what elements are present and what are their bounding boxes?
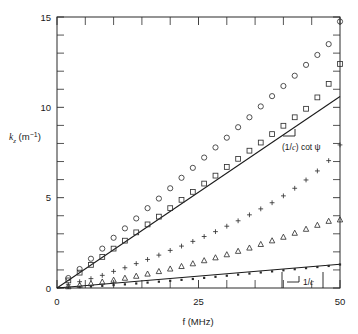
data-point: [304, 106, 309, 111]
data-point: [292, 186, 297, 191]
data-point: [77, 266, 82, 271]
data-point: [269, 94, 274, 99]
series-plus: [66, 143, 342, 288]
series-squares: [66, 62, 342, 283]
data-point: [180, 279, 182, 281]
data-point: [134, 216, 139, 221]
annotation-one-over-c-label: 1/c: [303, 277, 314, 287]
figure-container: 051015 02550 kz (m−1) f (MHz) (1/c) cot …: [0, 0, 358, 334]
data-point: [146, 281, 148, 283]
data-point: [179, 175, 184, 180]
data-point: [213, 173, 218, 178]
slope-marker-cot-psi: [283, 129, 295, 136]
data-point: [260, 271, 262, 273]
data-point: [179, 263, 184, 268]
data-point: [124, 283, 126, 285]
data-point: [158, 281, 160, 283]
x-axis-title: f (MHz): [182, 316, 213, 327]
data-point: [100, 246, 105, 251]
y-axis-title-unit-exp: −1: [30, 131, 38, 138]
data-point: [247, 148, 252, 153]
data-point: [236, 156, 241, 161]
data-point: [192, 278, 194, 280]
data-point: [190, 239, 195, 244]
data-point: [326, 158, 331, 163]
data-point: [224, 165, 229, 170]
data-point: [315, 169, 320, 174]
data-point: [190, 189, 195, 194]
data-point: [79, 286, 81, 288]
data-point: [111, 235, 116, 240]
data-point: [201, 258, 206, 263]
y-axis-title: kz (m−1): [9, 131, 41, 146]
data-point: [203, 277, 205, 279]
data-point: [179, 244, 184, 249]
x-axis-tick-labels: 02550: [54, 296, 345, 307]
slope-marker-one-over-c: [287, 276, 299, 282]
data-point: [67, 287, 69, 289]
data-point: [258, 104, 263, 109]
data-point: [113, 284, 115, 286]
data-point: [282, 269, 284, 271]
data-point: [237, 274, 239, 276]
data-point: [304, 178, 309, 183]
data-point: [235, 248, 240, 253]
reference-lines: [57, 96, 340, 288]
annotation-cot-psi-label: (1/c) cot ψ: [282, 142, 321, 152]
y-tick-label: 10: [40, 102, 51, 113]
data-point: [236, 218, 241, 223]
data-point: [224, 252, 229, 257]
data-point: [328, 265, 330, 267]
data-point: [316, 266, 318, 268]
data-point: [269, 238, 274, 243]
data-point: [226, 275, 228, 277]
x-tick-label: 25: [193, 296, 204, 307]
annotation-one-over-c: 1/c: [282, 272, 323, 288]
data-point: [247, 212, 252, 217]
data-point: [202, 234, 207, 239]
data-point: [190, 261, 195, 266]
data-point: [202, 155, 207, 160]
data-point: [213, 145, 218, 150]
data-point: [156, 253, 161, 258]
data-point: [315, 222, 320, 227]
data-point: [156, 268, 161, 273]
y-axis-title-unit-open: (m: [16, 131, 30, 142]
data-point: [145, 257, 150, 262]
x-tick-label: 50: [335, 296, 346, 307]
data-point: [224, 224, 229, 229]
y-axis-tick-labels: 051015: [40, 12, 51, 294]
x-axis-ticks: [57, 17, 340, 288]
data-point: [202, 181, 207, 186]
data-point: [168, 266, 173, 271]
data-point: [122, 275, 127, 280]
data-point: [100, 279, 105, 284]
plot-frame: [57, 17, 340, 288]
y-tick-label: 0: [46, 283, 51, 294]
data-point: [168, 248, 173, 253]
data-point: [270, 200, 275, 205]
data-point: [213, 255, 218, 260]
data-point: [292, 73, 297, 78]
data-point: [292, 115, 297, 120]
data-point: [134, 273, 139, 278]
y-axis-title-unit-close: ): [38, 131, 41, 142]
data-point: [339, 263, 341, 265]
data-point: [258, 206, 263, 211]
data-point: [169, 280, 171, 282]
data-point: [247, 115, 252, 120]
data-point: [190, 165, 195, 170]
data-point: [168, 186, 173, 191]
data-point: [326, 42, 331, 47]
data-point: [271, 270, 273, 272]
data-point: [326, 81, 331, 86]
data-point: [326, 218, 331, 223]
data-point: [134, 261, 139, 266]
data-point: [294, 268, 296, 270]
annot-cot-psi-suffix: ) cot ψ: [296, 142, 321, 152]
reference-line-cot-psi-line: [57, 96, 340, 288]
data-point: [122, 226, 127, 231]
data-point: [179, 197, 184, 202]
data-point: [281, 123, 286, 128]
data-point: [270, 132, 275, 137]
